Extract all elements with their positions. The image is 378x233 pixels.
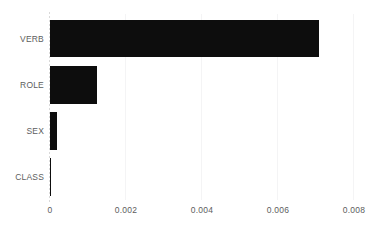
x-tick-label-0-006: 0.006 bbox=[267, 205, 289, 215]
plot-area bbox=[49, 14, 353, 200]
x-tick-label-0-004: 0.004 bbox=[191, 205, 213, 215]
y-tick-label-class: CLASS bbox=[0, 172, 44, 182]
bar-role bbox=[49, 66, 97, 104]
bar-chart: VERB ROLE SEX CLASS 0 0.002 0.004 0.006 … bbox=[0, 0, 378, 233]
x-tick-label-0-002: 0.002 bbox=[115, 205, 137, 215]
y-tick-label-sex: SEX bbox=[0, 126, 44, 136]
bar-sex bbox=[49, 112, 57, 150]
y-tick-label-role: ROLE bbox=[0, 80, 44, 90]
bar-row-sex bbox=[49, 112, 353, 150]
y-axis-line bbox=[49, 12, 50, 202]
bar-row-class bbox=[49, 158, 353, 196]
gridline-0-008 bbox=[353, 14, 354, 200]
bar-row-role bbox=[49, 66, 353, 104]
x-tick-label-0-008: 0.008 bbox=[343, 205, 365, 215]
bar-row-verb bbox=[49, 20, 353, 57]
bar-verb bbox=[49, 20, 319, 57]
y-tick-label-verb: VERB bbox=[0, 34, 44, 44]
x-tick-label-0: 0 bbox=[48, 205, 53, 215]
